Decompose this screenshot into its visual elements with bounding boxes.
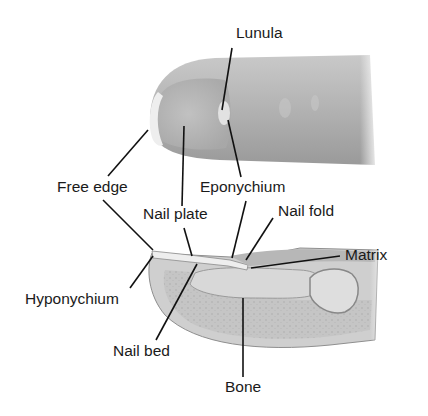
label-lunula: Lunula <box>236 25 283 41</box>
label-nail-fold: Nail fold <box>278 203 334 219</box>
label-eponychium: Eponychium <box>200 179 285 195</box>
leader-eponychium-bottom <box>232 201 246 258</box>
label-matrix: Matrix <box>345 247 387 263</box>
label-hyponychium: Hyponychium <box>25 291 119 307</box>
label-nail-bed: Nail bed <box>113 343 170 359</box>
diagram-artwork <box>0 0 428 416</box>
leader-free-edge-top <box>108 130 148 176</box>
nail-anatomy-diagram: Lunula Free edge Eponychium Nail plate N… <box>0 0 428 416</box>
leader-nail-plate-bottom <box>184 228 192 256</box>
label-bone: Bone <box>225 379 261 395</box>
finger-exterior-illustration <box>150 50 380 170</box>
label-free-edge: Free edge <box>57 179 128 195</box>
label-nail-plate: Nail plate <box>143 206 208 222</box>
